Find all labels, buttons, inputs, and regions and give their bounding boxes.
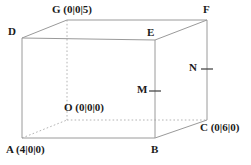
point-markers-group [149, 69, 213, 91]
vertex-label-E: E [147, 27, 154, 38]
geometry-figure: G (0|0|5) F D E N M O (0|0|0) C (0|6|0) … [0, 0, 251, 165]
front-face-group [22, 38, 155, 138]
vertex-label-A: A (4|0|0) [6, 144, 45, 155]
connecting-edges-group [22, 20, 207, 138]
vertex-label-G: G (0|0|5) [52, 4, 92, 15]
vertex-label-D: D [8, 26, 16, 37]
point-label-N: N [189, 62, 197, 73]
edge-E-D [22, 38, 155, 40]
vertex-label-C: C (0|6|0) [200, 122, 239, 133]
cuboid-drawing [0, 0, 251, 165]
edge-E-F [155, 20, 207, 40]
vertex-label-O: O (0|0|0) [64, 102, 104, 113]
vertex-label-B: B [151, 144, 158, 155]
edge-D-G [22, 20, 67, 38]
point-label-M: M [137, 84, 147, 95]
hidden-edges-group [22, 20, 207, 138]
edge-A-O-hidden [22, 120, 67, 138]
vertex-label-F: F [203, 4, 210, 15]
